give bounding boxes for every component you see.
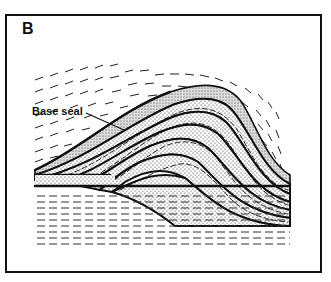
panel-label: B: [22, 20, 34, 38]
stratigraphic-mound-illustration: [0, 0, 331, 282]
base-seal-label: Base seal: [32, 105, 83, 117]
